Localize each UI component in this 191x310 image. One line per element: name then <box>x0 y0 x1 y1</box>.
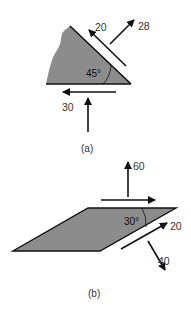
parallelogram-element <box>13 208 176 251</box>
label-40: 40 <box>158 255 170 267</box>
label-28: 28 <box>138 20 150 32</box>
label-60: 60 <box>133 160 145 172</box>
figure-a: 45° 20 28 30 (a) <box>46 20 150 154</box>
angle-label-30: 30° <box>124 216 139 227</box>
label-30: 30 <box>62 101 74 113</box>
figure-b: 30° 60 20 40 (b) <box>13 160 182 299</box>
arrow-normal-28 <box>110 20 134 44</box>
angle-label-45: 45° <box>86 68 101 79</box>
label-20: 20 <box>95 21 107 33</box>
stress-diagram: 45° 20 28 30 (a) 30° 60 20 40 (b) <box>0 0 191 310</box>
caption-b: (b) <box>88 288 100 299</box>
label-20-b: 20 <box>170 220 182 232</box>
caption-a: (a) <box>81 143 93 154</box>
